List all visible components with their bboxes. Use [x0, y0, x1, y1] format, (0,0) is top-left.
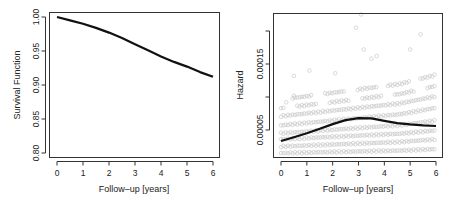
y-tick-label: 0.00015: [255, 48, 265, 79]
survival-curve: [57, 17, 213, 77]
x-tick-label: 1: [304, 168, 309, 178]
x-tick-label: 2: [107, 168, 112, 178]
survival-y-axis-title: Survival Function: [12, 50, 22, 119]
y-tick-label: 0.95: [31, 42, 41, 59]
survival-x-axis: 0123456: [55, 162, 216, 178]
x-tick-label: 6: [211, 168, 216, 178]
hazard-y-axis-title: Hazard: [235, 70, 245, 99]
hazard-y-axis: 0.000050.00015: [255, 31, 270, 145]
survival-x-axis-title: Follow–up [years]: [99, 184, 170, 194]
chart-figure: 0123456 0.800.850.900.951.00 Follow–up […: [0, 0, 457, 206]
y-tick-label: 0.90: [31, 76, 41, 93]
x-tick-label: 3: [133, 168, 138, 178]
x-tick-label: 5: [185, 168, 190, 178]
y-tick-label: 0.00005: [255, 114, 265, 145]
hazard-x-axis: 0123456: [279, 162, 439, 178]
x-tick-label: 6: [434, 168, 439, 178]
x-tick-label: 4: [382, 168, 387, 178]
x-tick-label: 1: [81, 168, 86, 178]
survival-y-axis: 0.800.850.900.951.00: [31, 8, 46, 161]
survival-panel: 0123456 0.800.850.900.951.00 Follow–up […: [12, 8, 220, 194]
survival-plot-frame: [50, 13, 220, 158]
x-tick-label: 3: [356, 168, 361, 178]
hazard-x-axis-title: Follow–up [years]: [323, 184, 394, 194]
y-tick-label: 0.85: [31, 110, 41, 127]
hazard-panel: 0123456 0.000050.00015 Follow–up [years]…: [235, 13, 443, 194]
x-tick-label: 0: [55, 168, 60, 178]
x-tick-label: 2: [330, 168, 335, 178]
x-tick-label: 4: [159, 168, 164, 178]
x-tick-label: 0: [279, 168, 284, 178]
y-tick-label: 0.80: [31, 144, 41, 161]
x-tick-label: 5: [408, 168, 413, 178]
y-tick-label: 1.00: [31, 8, 41, 25]
